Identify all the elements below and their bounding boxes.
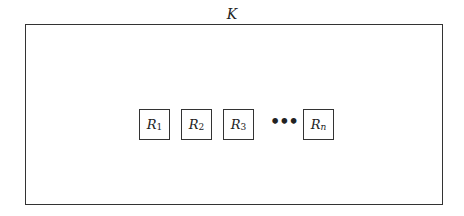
ellipsis-icon: ••• [270,112,290,131]
element-subscript: 2 [199,122,205,132]
element-box-r3: R3 [223,109,254,140]
element-label: R [231,117,241,132]
element-label: R [147,117,157,132]
element-subscript: n [321,122,327,132]
container-label: K [222,6,242,22]
element-label: R [311,117,321,132]
element-box-r2: R2 [181,109,212,140]
element-subscript: 1 [157,122,163,132]
element-subscript: 3 [241,122,247,132]
element-label: R [189,117,199,132]
element-box-rn: Rn [303,109,334,140]
element-box-r1: R1 [139,109,170,140]
